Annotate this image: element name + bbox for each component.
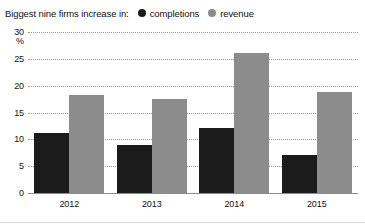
bar-revenue-2014: [234, 53, 269, 193]
x-tick-2015: 2015: [276, 199, 359, 209]
bar-group-2012: [28, 32, 111, 193]
y-axis-unit-label: %: [0, 36, 24, 46]
y-tick-20: 20: [0, 81, 24, 91]
plot-area: [28, 32, 358, 193]
bottom-divider: [0, 222, 365, 223]
y-tick-10: 10: [0, 134, 24, 144]
bar-completions-2014: [199, 128, 234, 193]
y-tick-25: 25: [0, 54, 24, 64]
bar-revenue-2012: [69, 95, 104, 193]
x-tick-2014: 2014: [193, 199, 276, 209]
legend-label-completions: completions: [150, 8, 200, 19]
legend-item-revenue: revenue: [208, 8, 254, 19]
bar-group-2015: [276, 32, 359, 193]
bars-layer: [28, 32, 358, 193]
y-tick-0: 0: [0, 188, 24, 198]
bar-chart: Biggest nine firms increase in: completi…: [0, 0, 365, 224]
y-tick-15: 15: [0, 108, 24, 118]
bar-revenue-2013: [152, 99, 187, 193]
bar-group-2013: [111, 32, 194, 193]
bar-group-2014: [193, 32, 276, 193]
legend-swatch-revenue-icon: [208, 9, 216, 17]
legend-swatch-completions-icon: [138, 9, 146, 17]
bar-completions-2012: [34, 133, 69, 193]
legend-label-revenue: revenue: [220, 8, 254, 19]
x-tick-2013: 2013: [111, 199, 194, 209]
bar-revenue-2015: [317, 92, 352, 193]
legend-item-completions: completions: [138, 8, 200, 19]
x-tick-2012: 2012: [28, 199, 111, 209]
y-tick-5: 5: [0, 161, 24, 171]
bar-completions-2015: [282, 155, 317, 193]
chart-legend: Biggest nine firms increase in: completi…: [5, 6, 254, 20]
bar-completions-2013: [117, 145, 152, 193]
gridline-0: [28, 193, 358, 194]
chart-title: Biggest nine firms increase in:: [5, 8, 129, 19]
